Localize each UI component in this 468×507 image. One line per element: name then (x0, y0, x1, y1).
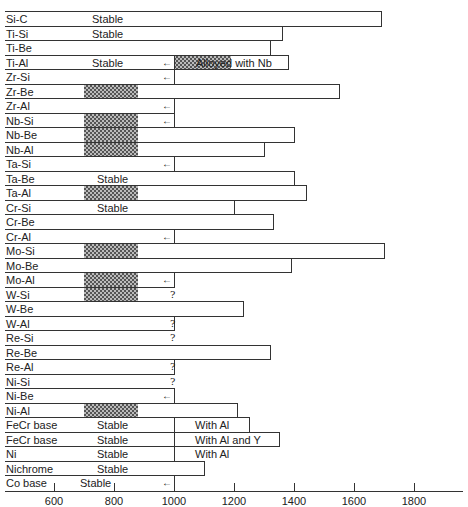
x-axis-tick (414, 483, 415, 491)
row-label: Ta-Si (6, 157, 31, 171)
x-axis-tick-label: 1000 (154, 495, 194, 507)
temperature-bar (9, 185, 307, 201)
bar-note: With Al (195, 447, 229, 461)
row-divider (5, 446, 174, 447)
temperature-bar (9, 403, 238, 419)
left-arrow-icon: ← (162, 57, 172, 69)
threshold-line (174, 98, 175, 114)
row-divider (5, 98, 174, 99)
temperature-bar (9, 127, 295, 143)
hatch-region (84, 288, 138, 302)
temperature-bar (9, 214, 274, 230)
question-mark-icon: ? (170, 332, 175, 344)
x-axis-tick (174, 483, 175, 491)
row-label: Mo-Al (6, 273, 35, 287)
threshold-line (174, 156, 175, 172)
x-axis-tick-label: 1800 (394, 495, 434, 507)
temperature-bar (9, 142, 265, 158)
bar-note: With Al (195, 418, 229, 432)
row-label: Zr-Si (6, 70, 30, 84)
stable-note: Stable (92, 12, 123, 26)
left-arrow-icon: ← (162, 100, 172, 112)
row-label: FeCr base (6, 433, 57, 447)
temperature-bar (9, 301, 244, 317)
left-arrow-icon: ← (162, 274, 172, 286)
stable-note: Stable (97, 418, 128, 432)
stable-note: Stable (80, 476, 111, 490)
left-arrow-icon: ← (162, 390, 172, 402)
row-label: Re-Si (6, 331, 34, 345)
question-mark-icon: ? (170, 289, 175, 301)
temperature-bar (9, 359, 175, 375)
threshold-line (174, 388, 175, 404)
temperature-bar (9, 316, 175, 332)
row-label: Ni-Be (6, 389, 34, 403)
x-axis-tick-label: 1400 (274, 495, 314, 507)
x-axis-tick-label: 800 (94, 495, 134, 507)
row-label: Co base (6, 476, 47, 490)
question-mark-icon: ? (170, 318, 175, 330)
question-mark-icon: ? (170, 361, 175, 373)
temperature-bar (9, 26, 283, 42)
threshold-line (174, 446, 175, 462)
x-axis-tick (354, 483, 355, 491)
temperature-bar (9, 171, 295, 187)
threshold-line (174, 229, 175, 245)
x-axis-tick (114, 483, 115, 491)
hatch-region (84, 273, 138, 287)
bar-note: With Al and Y (195, 433, 261, 447)
left-arrow-icon: ← (162, 115, 172, 127)
stable-note: Stable (97, 172, 128, 186)
threshold-line (174, 113, 175, 129)
left-arrow-icon: ← (162, 231, 172, 243)
row-label: Ti-Al (6, 56, 28, 70)
temperature-bar (9, 345, 271, 361)
threshold-line (174, 272, 175, 288)
stable-note: Stable (92, 27, 123, 41)
x-axis-tick (234, 483, 235, 491)
stable-note: Stable (92, 56, 123, 70)
temperature-bar (9, 258, 292, 274)
x-axis-tick (54, 483, 55, 491)
row-label: Nb-Si (6, 114, 34, 128)
x-axis-tick-label: 1600 (334, 495, 374, 507)
temperature-bar-chart: Si-CStableTi-SiStableTi-BeTi-AlStableAll… (0, 0, 468, 507)
row-label: Cr-Al (6, 230, 31, 244)
row-label: Ni (6, 447, 16, 461)
temperature-bar (9, 243, 385, 259)
stable-note: Stable (97, 201, 128, 215)
left-arrow-icon: ← (162, 71, 172, 83)
left-arrow-icon: ← (162, 477, 172, 489)
threshold-line (174, 69, 175, 85)
hatch-region (84, 114, 138, 128)
x-axis-tick (294, 483, 295, 491)
row-label: FeCr base (6, 418, 57, 432)
x-axis-tick-label: 600 (34, 495, 74, 507)
row-label: W-Si (6, 288, 30, 302)
temperature-bar (9, 11, 382, 27)
row-divider (5, 374, 174, 375)
bar-note: Alloyed with Nb (196, 56, 272, 70)
stable-note: Stable (97, 433, 128, 447)
temperature-bar (9, 40, 271, 56)
row-label: Ni-Si (6, 375, 30, 389)
x-axis-tick-label: 1200 (214, 495, 254, 507)
stable-note: Stable (97, 462, 128, 476)
question-mark-icon: ? (170, 376, 175, 388)
row-divider (5, 69, 174, 70)
left-arrow-icon: ← (162, 158, 172, 170)
x-axis (5, 491, 463, 492)
stable-note: Stable (97, 447, 128, 461)
temperature-bar (9, 84, 340, 100)
row-label: Zr-Al (6, 99, 30, 113)
